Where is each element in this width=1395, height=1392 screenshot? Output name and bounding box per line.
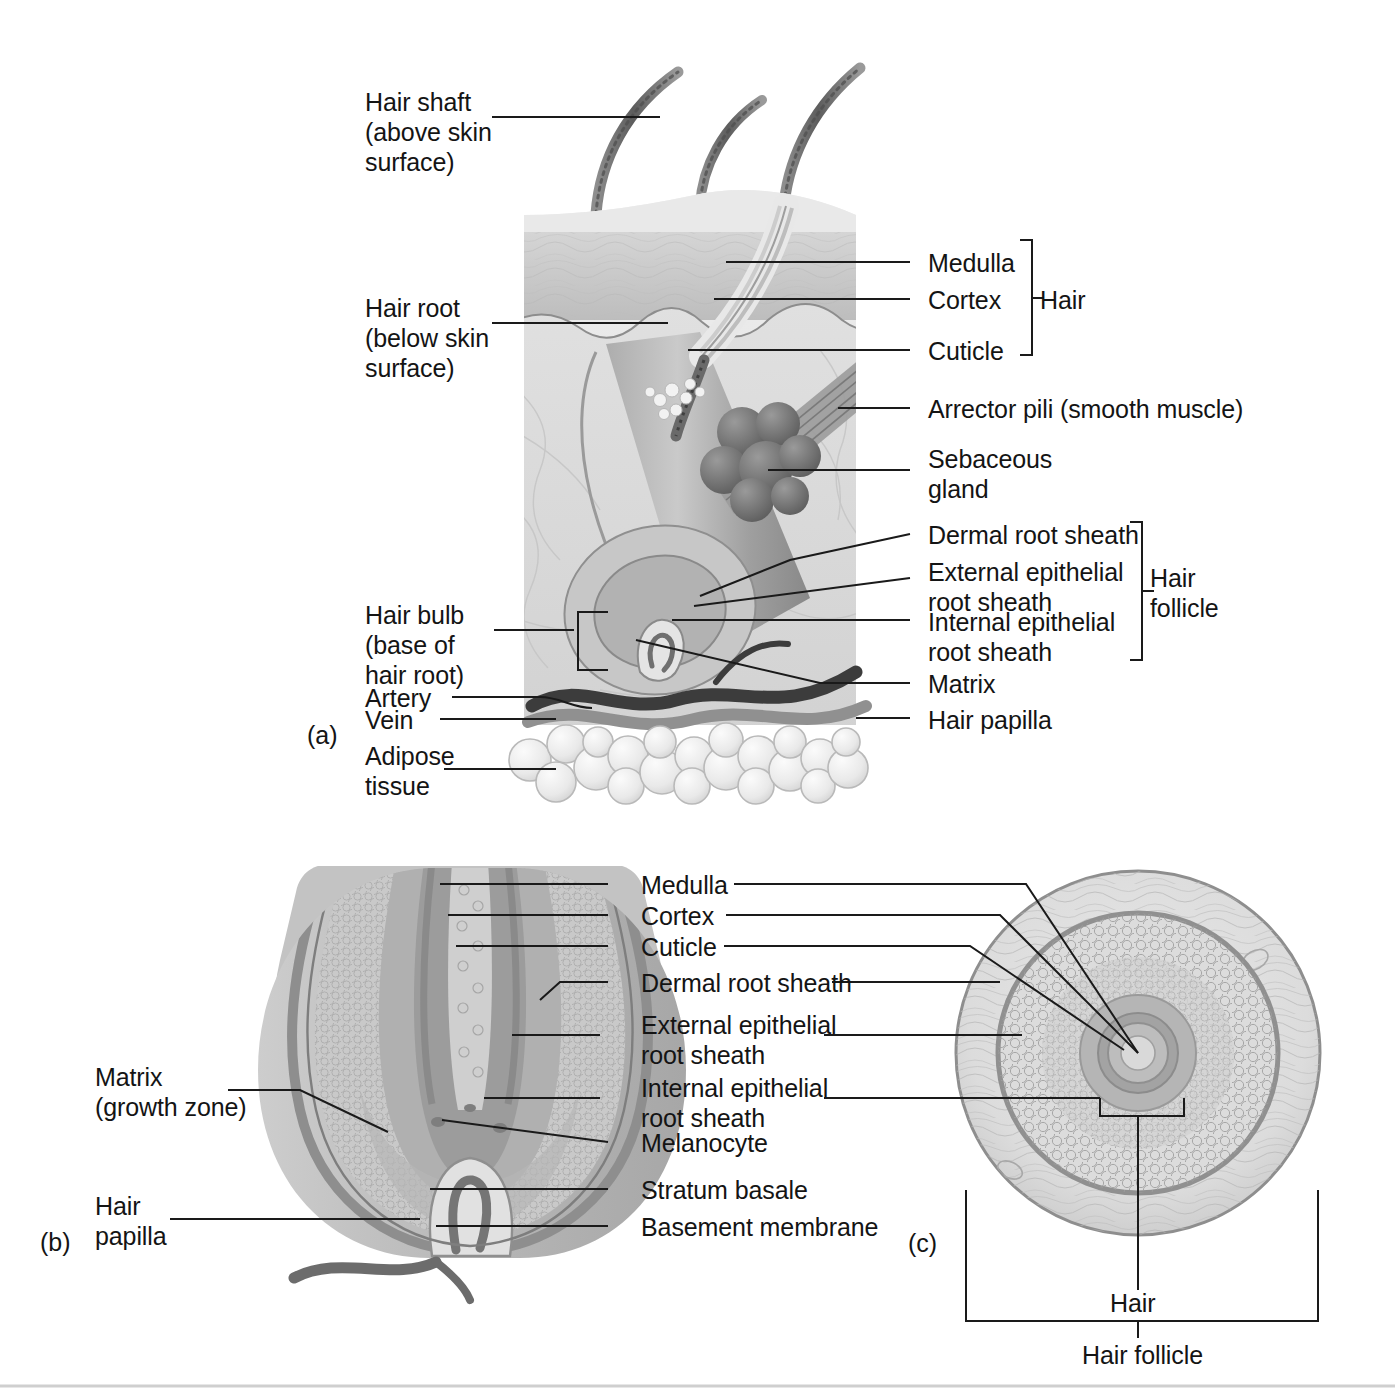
leader-ext-sheath-a — [694, 578, 910, 606]
leader-matrix-a — [636, 640, 910, 683]
leader-artery — [452, 697, 592, 708]
bracket-c-hair — [1100, 1098, 1184, 1116]
label-hair-bulb: Hair bulb (base of hair root) — [365, 600, 464, 690]
label-matrix-a: Matrix — [928, 669, 995, 699]
figure-page: Hair shaft (above skin surface) Hair roo… — [0, 0, 1395, 1392]
label-hair-c: Hair — [1110, 1288, 1155, 1318]
label-hair-shaft: Hair shaft (above skin surface) — [365, 87, 492, 177]
adipose-tissue — [509, 723, 868, 804]
label-basement-membrane-b: Basement membrane — [641, 1212, 878, 1242]
sebaceous-gland — [700, 402, 821, 522]
label-adipose-tissue: Adipose tissue — [365, 741, 455, 801]
label-cuticle-a: Cuticle — [928, 336, 1004, 366]
label-dermal-root-sheath-a: Dermal root sheath — [928, 520, 1139, 550]
blood-vessels — [528, 643, 866, 724]
leader-dermal-b-in — [540, 982, 608, 1000]
panel-a-illustration — [500, 68, 898, 804]
label-medulla-a: Medulla — [928, 248, 1015, 278]
leader-matrix-b — [228, 1090, 388, 1132]
arrector-pili — [712, 346, 898, 514]
label-stratum-basale-b: Stratum basale — [641, 1175, 808, 1205]
label-internal-epithelial-root-sheath-a: Internal epithelial root sheath — [928, 607, 1115, 667]
bracket-label-hair-follicle-a: Hair follicle — [1150, 563, 1219, 623]
label-melanocyte-b: Melanocyte — [641, 1128, 768, 1158]
panel-b-illustration — [240, 850, 710, 1300]
label-hair-papilla-a: Hair papilla — [928, 705, 1052, 735]
label-dermal-root-sheath-b: Dermal root sheath — [641, 968, 852, 998]
panel-letter-b: (b) — [40, 1227, 71, 1257]
label-vein: Vein — [365, 705, 413, 735]
label-internal-epithelial-root-sheath-b: Internal epithelial root sheath — [641, 1073, 828, 1133]
bracket-hair-bulb — [578, 612, 608, 670]
label-cortex-b: Cortex — [641, 901, 714, 931]
leader-melanocyte-b-in — [442, 1120, 608, 1142]
label-cortex-a: Cortex — [928, 285, 1001, 315]
label-external-epithelial-root-sheath-b: External epithelial root sheath — [641, 1010, 836, 1070]
panel-c-illustration — [950, 865, 1330, 1245]
label-arrector-pili: Arrector pili (smooth muscle) — [928, 394, 1243, 424]
label-hair-papilla-b: Hair papilla — [95, 1191, 167, 1251]
label-cuticle-b: Cuticle — [641, 932, 717, 962]
leader-dermal-root-sheath-a — [700, 534, 910, 596]
hair-shaft-strands — [596, 68, 860, 214]
label-hair-follicle-c: Hair follicle — [1082, 1340, 1203, 1370]
panel-letter-a: (a) — [307, 720, 338, 750]
bracket-label-hair-a: Hair — [1040, 285, 1085, 315]
panel-letter-c: (c) — [908, 1228, 937, 1258]
label-matrix-b: Matrix (growth zone) — [95, 1062, 247, 1122]
label-hair-root: Hair root (below skin surface) — [365, 293, 489, 383]
skin-block — [500, 170, 898, 742]
bracket-hair — [1020, 240, 1032, 355]
label-sebaceous-gland: Sebaceous gland — [928, 444, 1052, 504]
label-medulla-b: Medulla — [641, 870, 728, 900]
